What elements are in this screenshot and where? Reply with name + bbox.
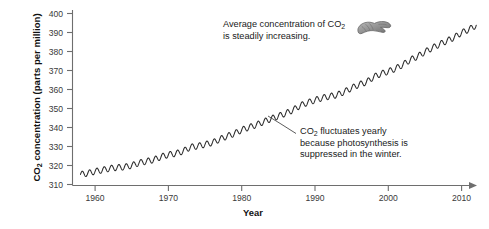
- y-axis-ticks: [67, 14, 73, 185]
- annotation-line: CO2 fluctuates yearly: [300, 126, 408, 138]
- x-axis-arrow-icon: [469, 182, 477, 189]
- subscript-2: 2: [341, 23, 345, 30]
- y-tick-label: 370: [49, 66, 64, 76]
- y-tick-label: 310: [49, 180, 64, 190]
- co2-data-line: [80, 25, 476, 176]
- x-tick-label: 1970: [159, 193, 178, 203]
- y-axis-title: CO2 concentration (parts per million): [31, 0, 42, 198]
- x-tick-label: 2010: [452, 193, 471, 203]
- x-axis-ticks: [95, 186, 462, 192]
- pointing-hand-icon: [356, 14, 392, 40]
- x-axis-tick-labels: 1960 1970 1980 1990 2000 2010: [86, 193, 472, 203]
- y-axis-title-text: concentration (parts per million): [31, 13, 42, 163]
- y-tick-label: 340: [49, 123, 64, 133]
- y-tick-label: 400: [49, 9, 64, 19]
- annotation-yearly-fluctuation: CO2 fluctuates yearly because photosynth…: [300, 126, 408, 161]
- annotation-line: because photosynthesis is: [300, 138, 408, 150]
- annotation-line: Average concentration of CO2: [223, 19, 345, 31]
- y-tick-label: 360: [49, 85, 64, 95]
- y-tick-label: 320: [49, 161, 64, 171]
- co2-concentration-chart: 400 390 380 370 360 350 340 330 320 310 …: [0, 0, 489, 229]
- annotation-leader-line: [268, 116, 296, 134]
- annotation-text: is steadily increasing.: [223, 31, 310, 41]
- annotation-average-increasing: Average concentration of CO2 is steadily…: [223, 19, 345, 42]
- annotation-line: suppressed in the winter.: [300, 149, 408, 161]
- y-axis-tick-labels: 400 390 380 370 360 350 340 330 320 310: [49, 9, 64, 190]
- x-axis-title: Year: [243, 207, 263, 218]
- subscript-2: 2: [314, 130, 318, 137]
- annotation-text: suppressed in the winter.: [300, 149, 402, 159]
- annotation-line: is steadily increasing.: [223, 31, 345, 43]
- annotation-text: because photosynthesis is: [300, 138, 408, 148]
- y-tick-label: 350: [49, 104, 64, 114]
- y-tick-label: 390: [49, 28, 64, 38]
- subscript-2: 2: [35, 163, 44, 167]
- annotation-text: Average concentration of CO: [223, 19, 341, 29]
- x-tick-label: 1990: [305, 193, 324, 203]
- x-tick-label: 2000: [379, 193, 398, 203]
- x-tick-label: 1980: [232, 193, 251, 203]
- annotation-text: CO: [300, 126, 314, 136]
- y-axis-title-text: CO: [31, 167, 42, 181]
- annotation-text: fluctuates yearly: [318, 126, 387, 136]
- y-tick-label: 330: [49, 142, 64, 152]
- x-tick-label: 1960: [86, 193, 105, 203]
- y-tick-label: 380: [49, 47, 64, 57]
